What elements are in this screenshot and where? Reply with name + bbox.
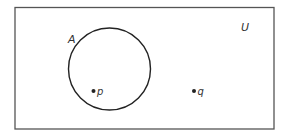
venn-diagram: U A p q — [0, 0, 289, 138]
point-q-label: q — [198, 86, 204, 97]
set-a-label: A — [67, 33, 76, 46]
point-p-dot — [92, 89, 96, 93]
universe-label: U — [241, 21, 249, 34]
universe-rectangle — [15, 8, 274, 130]
point-p-label: p — [96, 86, 103, 97]
set-a-circle — [69, 28, 151, 110]
point-q-dot — [192, 89, 196, 93]
